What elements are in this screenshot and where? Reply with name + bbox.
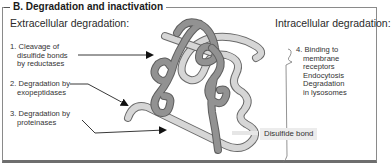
intracellular-item-4: 4. Binding to membrane receptors Endocyt… <box>296 46 347 98</box>
extracellular-item-3: 3. Degradation by proteinases <box>10 110 70 127</box>
extracellular-item-1: 1. Cleavage of disulfide bonds by reduct… <box>10 43 68 69</box>
arrow-proteinases <box>82 120 165 133</box>
extracellular-item-2: 2. Degradation by exopeptidases <box>10 80 70 97</box>
disulfide-bond-label: Disulfide bond <box>260 128 317 140</box>
arrow-exopeptidases <box>70 84 127 105</box>
intracellular-bracket <box>283 49 292 162</box>
leader-arrows <box>70 55 165 133</box>
